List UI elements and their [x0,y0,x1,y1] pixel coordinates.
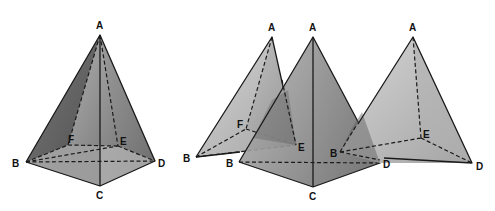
vertex-label-B: B [226,158,233,169]
vertex-label-E: E [298,142,305,153]
vertex-label-C: C [96,190,103,201]
tetrahedron-ABED: A B E D [330,22,483,172]
pyramid-decomposition-diagram: A B C D E F A B F E [0,0,495,211]
vertex-label-D: D [476,161,483,172]
vertex-label-F: F [68,134,74,145]
vertex-label-C: C [309,191,316,202]
vertex-label-E: E [423,129,430,140]
vertex-label-B: B [330,148,337,159]
vertex-label-B: B [183,153,190,164]
vertex-label-D: D [158,158,165,169]
vertex-label-F: F [237,119,243,130]
full-pyramid: A B C D E F [12,20,165,201]
vertex-label-A: A [268,22,275,33]
vertex-label-A: A [96,20,103,31]
vertex-label-B: B [12,158,19,169]
vertex-label-D: D [383,159,390,170]
vertex-label-A: A [309,22,316,33]
vertex-label-E: E [120,136,127,147]
diagram-canvas: A B C D E F A B F E [0,0,495,211]
vertex-label-A: A [409,22,416,33]
